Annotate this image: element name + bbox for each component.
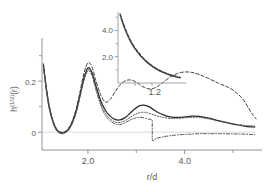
series-dashed-lower xyxy=(43,67,254,141)
inset-y-tick-label: 2.0 xyxy=(102,53,114,62)
figure-container: 00.22.04.0r/dh(1/2)(r)2.04.01.2 xyxy=(0,0,269,192)
svg-text:h(1/2)(r): h(1/2)(r) xyxy=(9,86,20,112)
y-tick-label: 0.2 xyxy=(25,78,37,87)
x-tick-label: 2.0 xyxy=(82,156,95,166)
chart-canvas: 00.22.04.0r/dh(1/2)(r)2.04.01.2 xyxy=(0,0,269,192)
series-dotted-middle xyxy=(43,66,254,133)
series-solid xyxy=(43,65,254,132)
inset-y-tick-label: 4.0 xyxy=(102,26,114,35)
y-tick-label: 0 xyxy=(32,129,37,138)
x-axis-label: r/d xyxy=(147,172,158,182)
inset-series-inset-dashed xyxy=(120,14,180,78)
inset-x-tick-label: 1.2 xyxy=(149,87,162,97)
y-axis-label: h(1/2)(r) xyxy=(9,86,20,112)
inset-series-inset-dotted xyxy=(120,16,180,78)
x-tick-label: 4.0 xyxy=(178,156,191,166)
inset-series-inset-solid xyxy=(120,15,180,78)
